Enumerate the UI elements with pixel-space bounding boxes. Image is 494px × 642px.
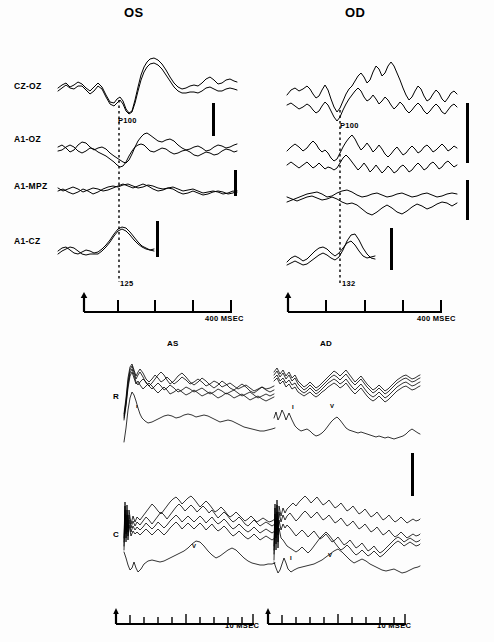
panel-title-os: OS — [124, 6, 143, 19]
axis-label-ad: 10 MSEC — [377, 622, 411, 630]
od-latency-dashed-line — [337, 110, 343, 285]
od-traces-panel — [285, 55, 460, 270]
axis-label-od: 400 MSEC — [417, 315, 456, 323]
wave-marker-i-ad-c: I — [290, 555, 292, 561]
channel-label-a1-mpz-os: A1-MPZ — [14, 182, 47, 191]
channel-label-a1-cz-os: A1-CZ — [14, 237, 41, 246]
panel-title-od: OD — [345, 6, 365, 19]
axis-label-as: 10 MSEC — [225, 622, 259, 630]
row-label-c: C — [113, 531, 119, 539]
os-traces-panel — [55, 55, 240, 270]
as-row-r-traces — [122, 358, 277, 443]
panel-title-as: AS — [167, 340, 179, 348]
row-label-r: R — [113, 393, 119, 401]
channel-label-a1-oz-os: A1-OZ — [14, 135, 41, 144]
calibration-bar-od-1 — [466, 103, 469, 163]
calibration-bar-os-3 — [156, 221, 159, 257]
wave-marker-i-as-r: ı — [136, 403, 138, 409]
panel-title-ad: AD — [320, 340, 332, 348]
as-row-c-traces — [122, 490, 277, 575]
peak-label-p100-os: P100 — [118, 117, 137, 125]
calibration-bar-os-1 — [212, 103, 215, 136]
wave-marker-v-ad-c: V — [328, 552, 332, 558]
ad-row-c-traces — [272, 490, 422, 575]
calibration-bar-os-2 — [234, 170, 237, 196]
ad-row-r-traces — [272, 358, 422, 443]
wave-marker-v-ad-r: V — [330, 403, 334, 409]
calibration-bar-od-3 — [390, 228, 393, 270]
os-latency-dashed-line — [116, 100, 122, 282]
latency-value-os: 125 — [120, 280, 133, 288]
latency-value-od: 132 — [342, 280, 355, 288]
wave-marker-i-ad-r: I — [292, 404, 294, 410]
peak-label-p100-od: P100 — [340, 122, 359, 130]
evoked-potential-figure: OS OD CZ-OZ A1-OZ A1-MPZ A1-CZ P100 125 — [0, 0, 494, 642]
channel-label-cz-oz-os: CZ-OZ — [14, 82, 41, 91]
calibration-bar-bottom — [411, 453, 414, 496]
wave-marker-v-as-c: V — [192, 543, 196, 549]
axis-label-os: 400 MSEC — [205, 315, 244, 323]
calibration-bar-od-2 — [466, 180, 469, 220]
